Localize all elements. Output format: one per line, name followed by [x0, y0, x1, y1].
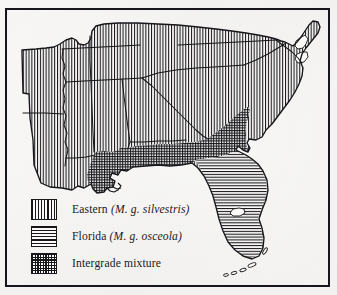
- horizontal-hatch-swatch: [31, 226, 57, 247]
- legend-scientific-florida: (M. g. osceola): [110, 230, 182, 243]
- legend-item-florida: Florida (M. g. osceola): [31, 223, 246, 250]
- cross-hatch-swatch: [31, 253, 57, 274]
- legend-scientific-eastern: (M. g. silvestris): [111, 203, 190, 216]
- legend-name-intergrade: Intergrade mixture: [72, 257, 161, 270]
- legend-label-eastern: Eastern (M. g. silvestris): [72, 204, 190, 216]
- vertical-hatch-swatch: [31, 199, 57, 220]
- figure-page: Eastern (M. g. silvestris) Florida (M. g…: [0, 0, 337, 295]
- legend-label-florida: Florida (M. g. osceola): [72, 231, 182, 243]
- legend-item-eastern: Eastern (M. g. silvestris): [31, 196, 246, 223]
- map-legend: Eastern (M. g. silvestris) Florida (M. g…: [31, 196, 246, 277]
- legend-name-eastern: Eastern: [72, 203, 108, 216]
- legend-label-intergrade: Intergrade mixture: [72, 258, 161, 270]
- legend-item-intergrade: Intergrade mixture: [31, 250, 246, 277]
- legend-name-florida: Florida: [72, 230, 107, 243]
